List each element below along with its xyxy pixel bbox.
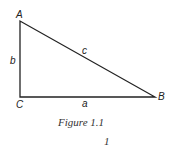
side-label-a: a [82, 99, 88, 109]
right-triangle-diagram [0, 0, 179, 159]
triangle-abc [20, 21, 155, 97]
side-label-c: c [82, 46, 87, 56]
figure-caption: Figure 1.1 [58, 117, 104, 128]
side-label-b: b [10, 56, 16, 66]
vertex-label-b: B [158, 92, 165, 102]
page-number: 1 [104, 136, 110, 147]
vertex-label-c: C [16, 100, 23, 110]
vertex-label-a: A [16, 10, 23, 20]
